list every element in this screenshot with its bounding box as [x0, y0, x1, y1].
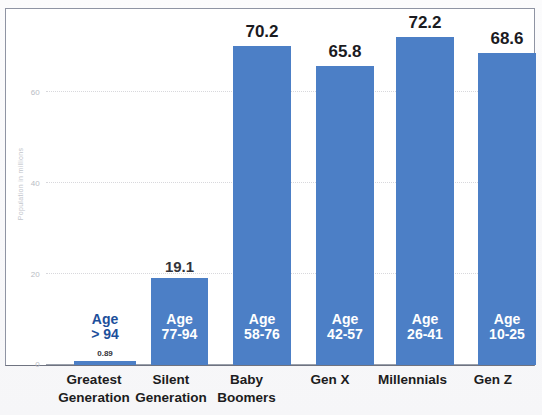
category-line1-silent-generation: Silent [153, 372, 190, 387]
bar-annotation-millennials: Age 26-41 [407, 312, 443, 341]
annotation-line2-gen-x: 42-57 [327, 327, 363, 341]
bar-value-gen-x: 65.8 [328, 42, 361, 62]
y-tick-label-60: 60 [31, 88, 40, 97]
annotation-line2-silent-generation: 77-94 [162, 327, 198, 341]
y-tick-label-0: 0 [35, 360, 40, 369]
annotation-line2-gen-z: 10-25 [489, 327, 525, 341]
plot-area: 60 40 20 0 0.89 Age > 94 19.1 [46, 9, 534, 365]
category-label-baby-boomers: Baby Boomers [195, 371, 298, 407]
y-tick-label-20: 20 [31, 270, 40, 279]
bar-annotation-gen-z: Age 10-25 [489, 312, 525, 341]
category-line1-baby-boomers: Baby [230, 372, 263, 387]
y-tick-label-40: 40 [31, 179, 40, 188]
bar-millennials[interactable]: 72.2 Age 26-41 [396, 37, 454, 365]
bar-baby-boomers[interactable]: 70.2 Age 58-76 [233, 46, 291, 365]
annotation-line2-millennials: 26-41 [407, 327, 443, 341]
bar-annotation-greatest-generation: Age > 94 [91, 312, 119, 341]
x-axis-category-labels: Greatest Generation Silent Generation Ba… [5, 371, 535, 415]
bar-gen-z[interactable]: 68.6 Age 10-25 [478, 53, 536, 365]
annotation-line2-baby-boomers: 58-76 [244, 327, 280, 341]
bar-greatest-generation[interactable]: 0.89 [74, 361, 136, 365]
chart-screenshot: Population in millions 60 40 20 0 0.89 A… [0, 0, 542, 415]
category-line1-gen-x: Gen X [310, 372, 349, 387]
category-line1-millennials: Millennials [378, 372, 447, 387]
bar-value-greatest-generation: 0.89 [97, 349, 113, 358]
bar-value-millennials: 72.2 [408, 13, 441, 33]
bar-value-gen-z: 68.6 [490, 29, 523, 49]
annotation-line2-greatest-generation: > 94 [91, 327, 119, 341]
category-line1-gen-z: Gen Z [474, 372, 512, 387]
bar-value-silent-generation: 19.1 [165, 258, 194, 275]
bar-annotation-gen-x: Age 42-57 [327, 312, 363, 341]
category-label-gen-z: Gen Z [448, 371, 538, 389]
bar-silent-generation[interactable]: 19.1 Age 77-94 [151, 278, 208, 365]
category-line2-baby-boomers: Boomers [195, 389, 298, 407]
bar-annotation-silent-generation: Age 77-94 [162, 312, 198, 341]
plot-frame: Population in millions 60 40 20 0 0.89 A… [5, 8, 535, 366]
bar-gen-x[interactable]: 65.8 Age 42-57 [316, 66, 374, 365]
y-axis-title: Population in millions [17, 148, 24, 220]
bar-annotation-baby-boomers: Age 58-76 [244, 312, 280, 341]
bar-value-baby-boomers: 70.2 [245, 22, 278, 42]
